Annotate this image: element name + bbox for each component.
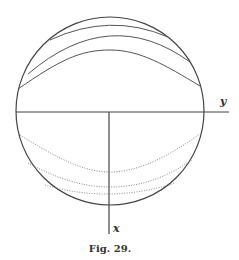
solid-curve-2 [28,36,190,74]
sphere-outline [16,17,204,205]
figure-diagram [0,0,239,260]
x-axis-label: x [113,222,120,235]
y-axis-label: y [220,95,226,108]
figure-caption: Fig. 29. [0,243,220,254]
dotted-curve-2 [28,160,192,187]
dotted-curve-3 [45,183,175,194]
solid-curve-3 [18,50,200,89]
dotted-curve-1 [20,134,200,172]
